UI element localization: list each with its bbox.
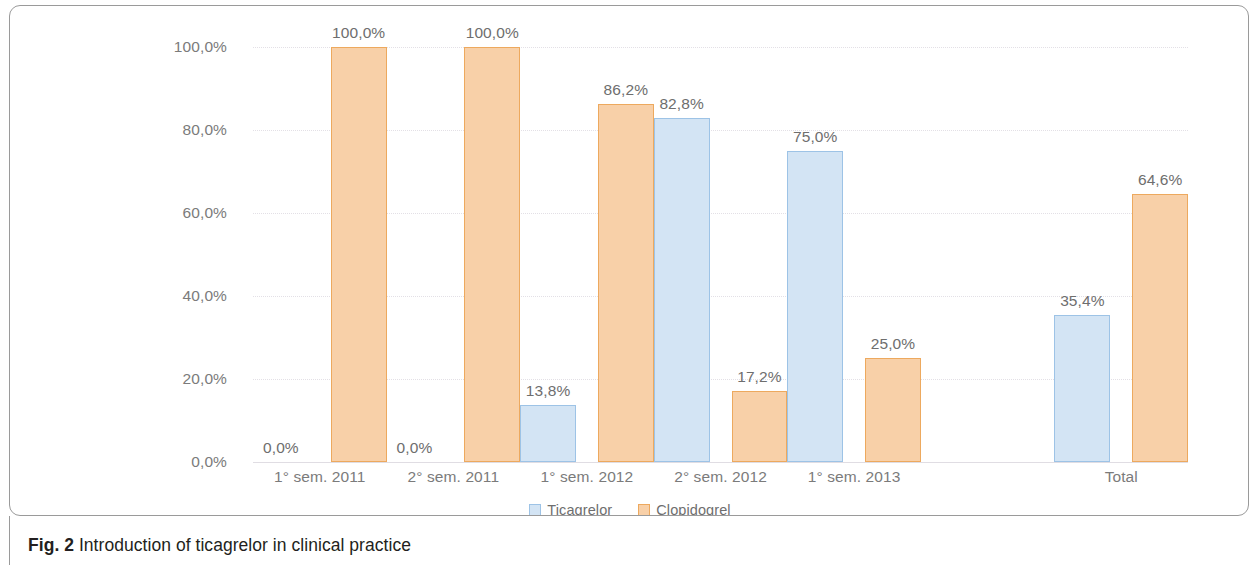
gridline	[253, 462, 1188, 463]
bar-slot: 13,8%	[520, 47, 576, 462]
bar-value-label: 0,0%	[397, 439, 433, 457]
bar-value-label: 0,0%	[263, 439, 299, 457]
bar-group-bars	[921, 47, 1055, 462]
bar-group: 0,0%100,0%	[387, 47, 521, 462]
bar-clopidogrel[interactable]	[1132, 194, 1188, 462]
bar-value-label: 25,0%	[871, 335, 915, 353]
y-axis-tick-label: 80,0%	[147, 121, 227, 139]
legend-label: Ticagrelor	[547, 502, 612, 516]
bar-ticagrelor[interactable]	[1054, 315, 1110, 462]
bar-group: 13,8%86,2%	[520, 47, 654, 462]
bar-ticagrelor[interactable]	[520, 405, 576, 462]
bar-slot: 100,0%	[464, 47, 520, 462]
x-axis-tick-label	[921, 468, 1055, 486]
bar-slot: 64,6%	[1132, 47, 1188, 462]
x-axis-labels: 1° sem. 20112° sem. 20111° sem. 20122° s…	[253, 468, 1188, 486]
bar-slot: 25,0%	[865, 47, 921, 462]
figure-container: 0,0%20,0%40,0%60,0%80,0%100,0% 0,0%100,0…	[0, 0, 1259, 565]
bar-value-label: 82,8%	[659, 95, 703, 113]
bar-ticagrelor[interactable]	[654, 118, 710, 462]
figure-caption: Fig. 2 Introduction of ticagrelor in cli…	[28, 535, 411, 556]
y-axis-tick-label: 40,0%	[147, 287, 227, 305]
legend-swatch-icon	[638, 504, 650, 516]
bar-slot: 82,8%	[654, 47, 710, 462]
figure-caption-text: Introduction of ticagrelor in clinical p…	[79, 535, 411, 555]
bar-value-label: 17,2%	[737, 368, 781, 386]
legend-item[interactable]: Clopidogrel	[638, 502, 730, 516]
bar-slot: 0,0%	[387, 47, 443, 462]
bar-value-label: 75,0%	[793, 128, 837, 146]
bar-group-bars: 35,4%64,6%	[1054, 47, 1188, 462]
x-axis-tick-label: Total	[1054, 468, 1188, 486]
legend-swatch-icon	[529, 504, 541, 516]
caption-rule	[9, 516, 10, 565]
bar-value-label: 35,4%	[1060, 292, 1104, 310]
bar-clopidogrel[interactable]	[732, 391, 788, 462]
bar-ticagrelor[interactable]	[787, 151, 843, 462]
x-axis-tick-label: 1° sem. 2011	[253, 468, 387, 486]
bar-slot: 75,0%	[787, 47, 843, 462]
bar-slot: 100,0%	[331, 47, 387, 462]
figure-caption-number: Fig. 2	[28, 535, 74, 555]
bar-group-bars: 82,8%17,2%	[654, 47, 788, 462]
bar-value-label: 100,0%	[466, 24, 519, 42]
x-axis-tick-label: 1° sem. 2013	[787, 468, 921, 486]
x-axis-tick-label: 1° sem. 2012	[520, 468, 654, 486]
bar-group-bars: 0,0%100,0%	[387, 47, 521, 462]
bar-groups: 0,0%100,0%0,0%100,0%13,8%86,2%82,8%17,2%…	[253, 47, 1188, 462]
bar-value-label: 64,6%	[1138, 171, 1182, 189]
bar-group: 75,0%25,0%	[787, 47, 921, 462]
y-axis-tick-label: 20,0%	[147, 370, 227, 388]
bar-group: 0,0%100,0%	[253, 47, 387, 462]
y-axis-tick-label: 100,0%	[147, 38, 227, 56]
bar-slot: 35,4%	[1054, 47, 1110, 462]
bar-slot: 86,2%	[598, 47, 654, 462]
bar-value-label: 13,8%	[526, 382, 570, 400]
bar-clopidogrel[interactable]	[598, 104, 654, 462]
y-axis-tick-label: 0,0%	[147, 453, 227, 471]
bar-group-bars: 75,0%25,0%	[787, 47, 921, 462]
x-axis-tick-label: 2° sem. 2011	[387, 468, 521, 486]
bar-value-label: 100,0%	[332, 24, 385, 42]
bar-slot: 0,0%	[253, 47, 309, 462]
legend-label: Clopidogrel	[656, 502, 730, 516]
bar-group	[921, 47, 1055, 462]
bar-group-bars: 0,0%100,0%	[253, 47, 387, 462]
bar-group-bars: 13,8%86,2%	[520, 47, 654, 462]
chart-frame: 0,0%20,0%40,0%60,0%80,0%100,0% 0,0%100,0…	[9, 5, 1249, 516]
legend-item[interactable]: Ticagrelor	[529, 502, 612, 516]
bar-clopidogrel[interactable]	[331, 47, 387, 462]
x-axis-tick-label: 2° sem. 2012	[654, 468, 788, 486]
chart-legend: TicagrelorClopidogrel	[10, 502, 1249, 516]
bar-group: 82,8%17,2%	[654, 47, 788, 462]
y-axis-tick-label: 60,0%	[147, 204, 227, 222]
bar-clopidogrel[interactable]	[865, 358, 921, 462]
bar-value-label: 86,2%	[604, 81, 648, 99]
bar-group: 35,4%64,6%	[1054, 47, 1188, 462]
bar-clopidogrel[interactable]	[464, 47, 520, 462]
bar-slot: 17,2%	[732, 47, 788, 462]
